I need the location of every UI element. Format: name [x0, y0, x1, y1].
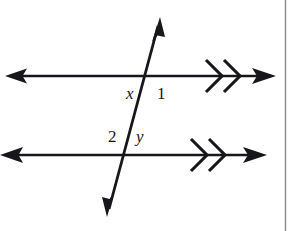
angle-label-y: y: [136, 128, 144, 145]
angle-label-2: 2: [108, 128, 117, 145]
bottom-parallel-line-group: [0, 139, 267, 171]
angle-label-1: 1: [157, 85, 166, 102]
transversal-bottom-arrowhead: [102, 193, 114, 217]
angle-label-x: x: [126, 85, 134, 102]
transversal-line-group: [102, 17, 165, 217]
transversal-top-arrowhead: [152, 17, 165, 42]
geometry-diagram-canvas: [0, 0, 296, 231]
transversal-line-shaft: [109, 26, 158, 209]
geometry-figure: x 1 2 y: [0, 0, 296, 231]
